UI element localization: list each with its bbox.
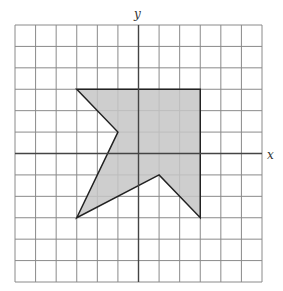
axes <box>15 25 262 282</box>
x-axis-label: x <box>267 148 274 162</box>
y-axis-label: y <box>134 7 141 21</box>
coordinate-plane <box>0 0 283 291</box>
